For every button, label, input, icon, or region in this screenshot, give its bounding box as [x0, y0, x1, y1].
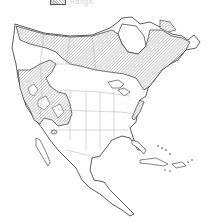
bahamas-islands — [157, 145, 193, 172]
north-america-map — [0, 0, 213, 221]
hispaniola — [172, 162, 186, 168]
florida — [132, 140, 146, 154]
range-southwest-patch — [51, 130, 57, 134]
cuba — [140, 158, 168, 166]
baja-california — [36, 138, 50, 166]
